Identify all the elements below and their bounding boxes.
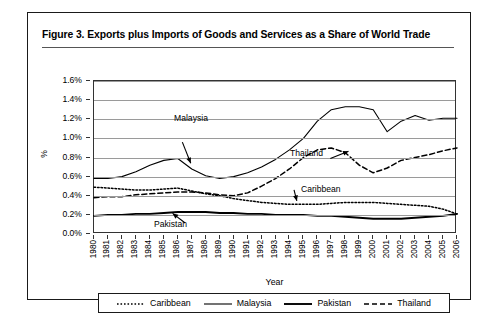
x-tick-label: 2003 <box>410 240 419 258</box>
y-tick-label: 0.4% <box>62 190 82 200</box>
legend-item-malaysia[interactable]: Malaysia <box>204 298 272 308</box>
y-tick-mark <box>86 195 90 196</box>
x-tick-label: 1998 <box>340 240 349 258</box>
x-tick-label: 2006 <box>452 240 461 258</box>
figure-title: Figure 3. Exports plus Imports of Goods … <box>42 29 458 40</box>
x-tick-mark <box>219 235 220 239</box>
legend-label: Thailand <box>397 298 431 308</box>
x-tick-label: 1990 <box>228 240 237 258</box>
x-tick-mark <box>93 235 94 239</box>
x-tick-mark <box>358 235 359 239</box>
annotation-caribbean: Caribbean <box>301 184 341 194</box>
legend-item-pakistan[interactable]: Pakistan <box>284 298 351 308</box>
gridline <box>94 100 455 101</box>
x-tick-mark <box>107 235 108 239</box>
x-tick-mark <box>247 235 248 239</box>
y-tick-mark <box>86 176 90 177</box>
x-tick-mark <box>205 235 206 239</box>
y-tick-mark <box>86 214 90 215</box>
x-tick-label: 1992 <box>256 240 265 258</box>
x-tick-label: 2001 <box>382 240 391 258</box>
y-tick-label: 0.2% <box>62 209 82 219</box>
x-tick-mark <box>177 235 178 239</box>
y-tick-mark <box>86 137 90 138</box>
y-tick-label: 0.6% <box>62 171 82 181</box>
gridline <box>94 138 455 139</box>
legend-swatch-icon <box>284 301 312 306</box>
legend-item-thailand[interactable]: Thailand <box>364 298 431 308</box>
x-tick-label: 2004 <box>424 240 433 258</box>
legend-swatch-icon <box>117 301 145 306</box>
x-tick-mark <box>302 235 303 239</box>
x-tick-mark <box>149 235 150 239</box>
y-axis-ticks: 0.0%0.2%0.4%0.6%0.8%1.0%1.2%1.4%1.6% <box>28 80 90 233</box>
chart-legend: CaribbeanMalaysiaPakistanThailand <box>98 293 450 313</box>
x-tick-mark <box>442 235 443 239</box>
series-line-caribbean <box>94 187 457 214</box>
x-tick-mark <box>288 235 289 239</box>
x-tick-label: 1993 <box>270 240 279 258</box>
x-tick-label: 2002 <box>396 240 405 258</box>
legend-item-caribbean[interactable]: Caribbean <box>117 298 191 308</box>
x-axis-title: Year <box>93 277 456 287</box>
y-tick-label: 1.6% <box>62 75 82 85</box>
y-tick-mark <box>86 118 90 119</box>
legend-label: Caribbean <box>150 298 191 308</box>
y-tick-label: 1.0% <box>62 132 82 142</box>
y-tick-label: 1.4% <box>62 94 82 104</box>
x-tick-mark <box>344 235 345 239</box>
x-tick-label: 1982 <box>116 240 125 258</box>
x-tick-label: 1996 <box>312 240 321 258</box>
annotation-pakistan: Pakistan <box>154 219 187 229</box>
y-tick-label: 0.8% <box>62 152 82 162</box>
x-tick-label: 1984 <box>144 240 153 258</box>
x-tick-mark <box>414 235 415 239</box>
x-tick-label: 1994 <box>284 240 293 258</box>
x-tick-label: 1997 <box>326 240 335 258</box>
x-tick-mark <box>191 235 192 239</box>
y-tick-mark <box>86 233 90 234</box>
x-tick-label: 1981 <box>102 240 111 258</box>
x-tick-mark <box>135 235 136 239</box>
x-tick-label: 1988 <box>200 240 209 258</box>
x-tick-mark <box>400 235 401 239</box>
y-tick-mark <box>86 80 90 81</box>
x-tick-mark <box>330 235 331 239</box>
x-tick-label: 1991 <box>242 240 251 258</box>
x-tick-label: 1987 <box>186 240 195 258</box>
x-tick-mark <box>372 235 373 239</box>
gridline <box>94 215 455 216</box>
annotation-thailand: Thailand <box>290 148 323 158</box>
x-tick-mark <box>316 235 317 239</box>
x-tick-mark <box>261 235 262 239</box>
x-tick-label: 1985 <box>158 240 167 258</box>
x-tick-mark <box>121 235 122 239</box>
x-tick-label: 2000 <box>368 240 377 258</box>
x-tick-label: 1995 <box>298 240 307 258</box>
annotation-malaysia: Malaysia <box>174 113 208 123</box>
figure-frame: Figure 3. Exports plus Imports of Goods … <box>27 12 471 300</box>
legend-label: Pakistan <box>317 298 351 308</box>
x-tick-mark <box>428 235 429 239</box>
gridline <box>94 196 455 197</box>
gridline <box>94 177 455 178</box>
x-tick-mark <box>163 235 164 239</box>
chart-area: 0.0%0.2%0.4%0.6%0.8%1.0%1.2%1.4%1.6% % M… <box>28 45 472 301</box>
legend-swatch-icon <box>204 301 232 306</box>
x-tick-label: 1983 <box>130 240 139 258</box>
x-tick-label: 1986 <box>172 240 181 258</box>
y-tick-label: 0.0% <box>62 228 82 238</box>
series-line-malaysia <box>94 107 457 179</box>
plot-area <box>93 80 456 233</box>
y-axis-title: % <box>39 150 49 158</box>
gridline <box>94 81 455 82</box>
legend-swatch-icon <box>364 301 392 306</box>
y-tick-mark <box>86 157 90 158</box>
x-tick-mark <box>386 235 387 239</box>
legend-label: Malaysia <box>237 298 272 308</box>
x-axis-ticks: 1980198119821983198419851986198719881989… <box>93 235 456 275</box>
y-tick-label: 1.2% <box>62 113 82 123</box>
x-tick-mark <box>233 235 234 239</box>
x-tick-mark <box>456 235 457 239</box>
x-tick-label: 1999 <box>354 240 363 258</box>
